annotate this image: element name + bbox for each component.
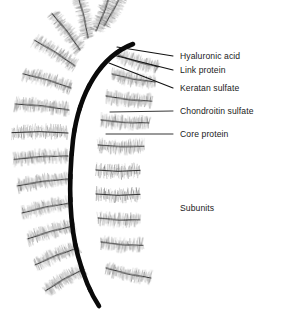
subunit-bottlebrush	[100, 235, 145, 255]
label-core-protein: Core protein	[180, 129, 229, 139]
subunit-bottlebrush	[101, 112, 151, 131]
leader-line-chondroitin-sulfate	[110, 111, 173, 112]
label-chondroitin-sulfate: Chondroitin sulfate	[180, 106, 254, 116]
link-protein-nub	[70, 220, 75, 226]
link-protein-nub	[72, 127, 77, 133]
label-keratan-sulfate: Keratan sulfate	[180, 83, 239, 93]
subunit-bottlebrush	[96, 186, 140, 203]
subunit-bottlebrush	[105, 89, 153, 110]
link-protein-nub	[69, 151, 74, 157]
subunit-bottlebrush	[115, 48, 160, 75]
proteoglycan-aggregate-figure: Hyaluronic acid Link protein Keratan sul…	[0, 0, 282, 321]
subunit-bottlebrush	[96, 211, 140, 229]
subunit-bottlebrush	[14, 96, 70, 118]
leader-lines-layer	[106, 47, 173, 134]
subunit-bottlebrush	[96, 163, 140, 180]
subunit-bottlebrush	[25, 217, 77, 247]
core-protein-axis	[34, 39, 75, 66]
subunit-bottlebrush	[12, 124, 68, 140]
link-protein-nub	[68, 197, 72, 202]
subunit-bottlebrush	[16, 170, 70, 194]
subunit-bottlebrush	[13, 147, 69, 167]
subunit-bottlebrush	[97, 137, 145, 155]
subunit-bottlebrush	[21, 65, 74, 94]
label-hyaluronic-acid: Hyaluronic acid	[180, 51, 240, 61]
core-protein-axis	[98, 218, 140, 221]
diagram-canvas	[0, 0, 282, 321]
subunits-layer	[12, 0, 161, 297]
annotation-subunits: Subunits	[180, 203, 214, 213]
label-link-protein: Link protein	[180, 65, 226, 75]
subunit-bottlebrush	[104, 261, 153, 286]
subunit-bottlebrush	[20, 194, 72, 220]
link-protein-nub	[68, 174, 72, 179]
